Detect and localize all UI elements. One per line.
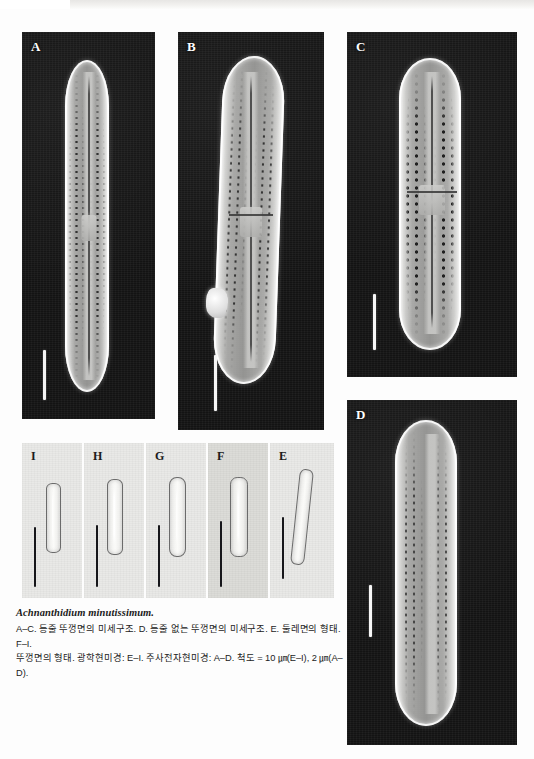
scale-bar-g xyxy=(158,525,160,587)
diatom-valve-g xyxy=(169,477,186,557)
panel-label-h: H xyxy=(93,450,102,462)
scale-bar-a xyxy=(43,350,46,400)
panel-label-i: I xyxy=(31,450,36,462)
caption-line-1: A–C. 등줄 뚜껑면의 미세구조. D. 등줄 없는 뚜껑면의 미세구조. E… xyxy=(16,622,346,651)
panel-label-f: F xyxy=(217,450,224,462)
central-nodule-b xyxy=(240,207,262,237)
debris-particle-b xyxy=(206,288,228,318)
central-nodule-a xyxy=(81,215,96,241)
panel-b[interactable]: B xyxy=(178,32,324,430)
diatom-valve-h xyxy=(107,479,123,555)
panel-label-g: G xyxy=(155,450,164,462)
figure-plate: A B C xyxy=(0,0,534,759)
scale-bar-c xyxy=(373,294,376,350)
panel-label-a: A xyxy=(31,40,40,53)
valve-axis-f xyxy=(237,487,239,545)
scale-bar-d xyxy=(369,585,372,637)
caption-line-2: 뚜껑면의 형태. 광학현미경: E–I. 주사전자현미경: A–D. 척도 = … xyxy=(16,651,346,680)
page-edge-band xyxy=(70,0,534,9)
panel-a[interactable]: A xyxy=(22,32,155,419)
scale-bar-i xyxy=(34,527,36,587)
panel-d[interactable]: D xyxy=(347,400,517,745)
panel-label-d: D xyxy=(356,408,365,421)
scale-bar-e xyxy=(282,517,284,579)
panel-label-b: B xyxy=(187,40,196,53)
scale-bar-h xyxy=(96,525,98,587)
central-nodule-c xyxy=(419,185,445,215)
scale-bar-b xyxy=(214,355,217,411)
valve-axis-g xyxy=(176,487,178,545)
page-edge-left xyxy=(0,0,70,9)
panel-e[interactable]: E xyxy=(270,443,334,598)
striae-dots-left xyxy=(398,426,426,720)
species-name: Achnanthidium minutissimum. xyxy=(16,607,346,618)
central-fascia-c xyxy=(407,191,457,193)
panel-label-e: E xyxy=(279,450,287,462)
valve-axis-i xyxy=(52,491,54,543)
panel-label-c: C xyxy=(356,40,365,53)
panel-h[interactable]: H xyxy=(84,443,144,598)
central-fascia-b xyxy=(229,214,273,216)
panel-c[interactable]: C xyxy=(347,32,517,377)
panel-f[interactable]: F xyxy=(208,443,268,598)
valve-axis-h xyxy=(113,487,115,545)
scale-bar-f xyxy=(220,521,222,587)
diatom-valve-f xyxy=(230,477,248,557)
sternum-area-d xyxy=(425,434,440,714)
panel-i[interactable]: I xyxy=(22,443,82,598)
diatom-valve-i xyxy=(46,483,61,553)
panel-g[interactable]: G xyxy=(146,443,206,598)
figure-caption-block: Achnanthidium minutissimum. A–C. 등줄 뚜껑면의… xyxy=(16,607,346,680)
